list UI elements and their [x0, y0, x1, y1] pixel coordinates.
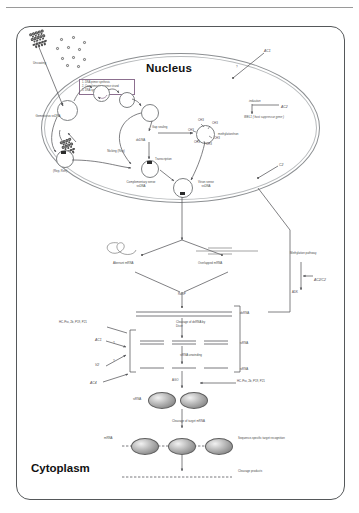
arrow-replication-2: [108, 89, 119, 93]
risc-on-mrna-3: [205, 438, 233, 455]
line-overlapped-to-rdrp: [184, 272, 228, 292]
arrow-rep-ren: [72, 160, 131, 168]
arrow-to-overlapped: [182, 240, 222, 255]
arrow-v2-suppress: [106, 355, 126, 366]
risc-complex: [180, 392, 208, 409]
line-sirna-to-nucleus: [258, 188, 290, 312]
line-virion-assembly: [59, 130, 68, 147]
ago-sirna-complex: [148, 392, 176, 409]
legend-leader: [98, 95, 107, 98]
figure-canvas: Nucleus Cytoplasm 1. DNA primer synthesi…: [0, 0, 359, 513]
bracket-suppressors-left: [130, 330, 136, 372]
arrow-virion-package: [68, 133, 76, 142]
leader-c2: [258, 166, 278, 178]
arrow-replication-3: [132, 99, 141, 106]
leader-ac1: [233, 53, 264, 78]
risc-on-mrna-2: [168, 438, 196, 455]
arrow-ssdna-to-repren: [52, 117, 57, 152]
line-aberrant-to-rdrp: [135, 272, 180, 292]
arrow-nicking-rep: [119, 113, 141, 164]
arrow-gap-sealing: [149, 121, 152, 131]
leader-suppressors-left: [107, 327, 127, 333]
risc-on-mrna-1: [131, 438, 159, 455]
aberrant-mrna-squiggle: [107, 243, 136, 255]
arrow-ac4-suppress: [103, 374, 128, 382]
arrow-virion-ssdna: [160, 170, 174, 181]
arrow-uncoating: [36, 40, 63, 106]
arrow-to-aberrant: [142, 240, 182, 255]
pathway-vector-layer: [0, 0, 359, 513]
arrow-methylated-to-virion: [191, 142, 205, 180]
arrow-replication-1: [74, 87, 92, 101]
bracket-suppressors-right: [234, 306, 240, 372]
arrow-ac1-suppress: [106, 341, 126, 347]
